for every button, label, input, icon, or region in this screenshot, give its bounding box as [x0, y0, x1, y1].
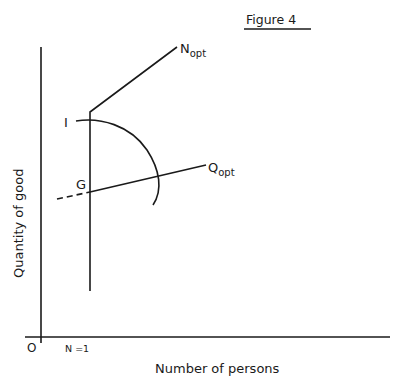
n-opt-curve: [90, 47, 177, 291]
x-axis-label: Number of persons: [155, 361, 280, 376]
q-opt-line: [90, 165, 206, 192]
figure-title: Figure 4: [246, 12, 296, 27]
n-opt-label: Nopt: [180, 41, 206, 59]
indifference-label: I: [64, 115, 68, 130]
figure-4-diagram: Figure 4 O N =1 Number of persons Quanti…: [0, 0, 401, 376]
q-opt-label: Qopt: [208, 160, 235, 178]
x-tick-label: N =1: [65, 343, 89, 354]
y-axis-label: Quantity of good: [11, 169, 26, 278]
origin-label: O: [27, 341, 36, 355]
point-g-label: G: [76, 177, 86, 192]
q-opt-dashed-extension: [57, 192, 90, 199]
